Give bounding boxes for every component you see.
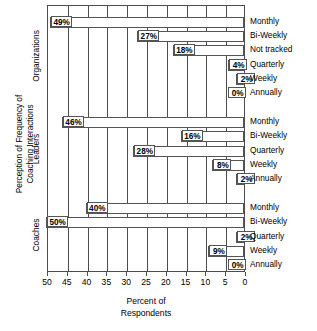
x-tick-label: 10 (195, 277, 215, 288)
category-label: Bi-Weekly (250, 30, 287, 41)
bar-value-label: 50% (47, 216, 68, 227)
x-tick-label: 35 (96, 277, 116, 288)
x-axis-title-line-1: Percent of (47, 296, 245, 308)
bar-value-label: 8% (213, 159, 231, 170)
x-tick-label: 50 (37, 277, 57, 288)
category-label: Quarterly (250, 145, 284, 156)
x-tick-mark (106, 272, 107, 276)
x-tick-mark (126, 272, 127, 276)
x-tick-mark (146, 272, 147, 276)
x-tick-mark (186, 272, 187, 276)
gridline (88, 6, 89, 271)
bar-value-label: 49% (51, 16, 72, 27)
x-axis-title-line-2: Respondents (47, 308, 245, 320)
x-tick-mark (245, 272, 246, 276)
bar (46, 217, 244, 228)
category-label: Not tracked (250, 44, 292, 55)
category-label: Annually (250, 173, 282, 184)
x-tick-label: 0 (235, 277, 255, 288)
bar-chart: Perception of Frequency of Coaching Inte… (0, 0, 317, 331)
gridline (107, 6, 108, 271)
bar-value-label: 27% (138, 30, 159, 41)
x-tick-label: 45 (57, 277, 77, 288)
x-tick-mark (87, 272, 88, 276)
bar-value-label: 16% (182, 130, 203, 141)
category-label: Annually (250, 259, 282, 270)
gridline (147, 6, 148, 271)
category-label: Weekly (250, 245, 277, 256)
bar-value-label: 4% (229, 59, 247, 70)
plot-area (47, 5, 245, 272)
x-tick-label: 5 (215, 277, 235, 288)
category-label: Monthly (250, 202, 279, 213)
category-label: Bi-Weekly (250, 130, 287, 141)
x-tick-mark (205, 272, 206, 276)
category-label: Weekly (250, 73, 277, 84)
x-tick-mark (166, 272, 167, 276)
bar-value-label: 0% (228, 87, 246, 98)
bar-value-label: 9% (209, 245, 227, 256)
bar-value-label: 40% (87, 202, 108, 213)
x-tick-mark (47, 272, 48, 276)
gridline (167, 6, 168, 271)
gridline (127, 6, 128, 271)
group-label-organizations: Organizations (31, 17, 41, 95)
x-tick-mark (67, 272, 68, 276)
bar (62, 117, 244, 128)
x-tick-label: 40 (77, 277, 97, 288)
category-label: Monthly (250, 116, 279, 127)
category-label: Annually (250, 87, 282, 98)
category-label: Monthly (250, 16, 279, 27)
x-tick-mark (225, 272, 226, 276)
x-tick-label: 20 (156, 277, 176, 288)
bar (86, 203, 244, 214)
x-tick-label: 15 (176, 277, 196, 288)
gridline (68, 6, 69, 271)
category-label: Quarterly (250, 59, 284, 70)
x-tick-label: 25 (136, 277, 156, 288)
y-axis-title-line-1: Perception of Frequency of (14, 10, 25, 278)
bar-value-label: 0% (228, 259, 246, 270)
category-label: Quarterly (250, 231, 284, 242)
bar (50, 17, 244, 28)
bar-value-label: 46% (63, 116, 84, 127)
category-label: Bi-Weekly (250, 216, 287, 227)
group-label-leaders: Leaders (31, 110, 41, 188)
bar-value-label: 28% (134, 145, 155, 156)
bar-value-label: 18% (174, 44, 195, 55)
group-label-coaches: Coaches (31, 196, 41, 274)
category-label: Weekly (250, 159, 277, 170)
x-tick-label: 30 (116, 277, 136, 288)
x-axis-title: Percent of Respondents (47, 296, 245, 319)
